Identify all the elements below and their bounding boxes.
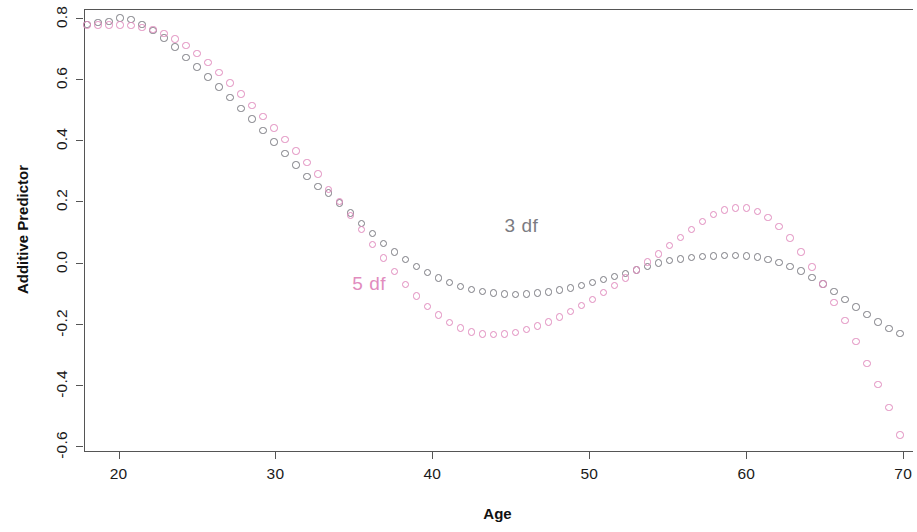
data-point (808, 274, 815, 281)
data-point (83, 21, 90, 28)
data-point (863, 311, 870, 318)
data-point (215, 69, 222, 76)
data-point (721, 206, 728, 213)
data-point (501, 330, 508, 337)
x-tick-mark (589, 452, 590, 459)
x-tick-label: 50 (569, 465, 609, 483)
x-tick-label: 60 (726, 465, 766, 483)
y-axis-title: Additive Predictor (14, 129, 31, 329)
data-point (204, 73, 211, 80)
data-point (292, 147, 299, 154)
data-point (830, 299, 837, 306)
data-point (182, 54, 189, 61)
data-point (797, 248, 804, 255)
data-point (819, 280, 826, 287)
data-point (138, 24, 145, 31)
data-point (314, 183, 321, 190)
x-tick-mark (119, 452, 120, 459)
data-point (710, 252, 717, 259)
data-point (270, 138, 277, 145)
data-point (808, 263, 815, 270)
x-tick-label: 30 (255, 465, 295, 483)
data-point (193, 50, 200, 57)
data-point (699, 253, 706, 260)
data-point (435, 274, 442, 281)
data-point (512, 329, 519, 336)
y-tick-mark (76, 201, 83, 202)
y-tick-mark (76, 79, 83, 80)
data-point (754, 208, 761, 215)
data-point (644, 258, 651, 265)
data-point (764, 256, 771, 263)
data-point (655, 259, 662, 266)
data-point (457, 324, 464, 331)
data-point (885, 325, 892, 332)
data-point (281, 136, 288, 143)
data-point (732, 252, 739, 259)
data-point (303, 159, 310, 166)
y-tick-label: -0.2 (53, 297, 71, 349)
series-label-5-df: 5 df (352, 273, 386, 295)
data-point (248, 115, 255, 122)
y-tick-mark (76, 18, 83, 19)
data-point (248, 102, 255, 109)
x-tick-mark (903, 452, 904, 459)
data-point (226, 79, 233, 86)
data-point (589, 296, 596, 303)
data-point (292, 161, 299, 168)
data-point (885, 404, 892, 411)
data-point (567, 284, 574, 291)
data-point (743, 252, 750, 259)
data-point (775, 259, 782, 266)
y-tick-mark (76, 140, 83, 141)
data-point (545, 288, 552, 295)
data-point (841, 317, 848, 324)
data-point (688, 254, 695, 261)
y-tick-label: 0.4 (53, 113, 71, 165)
data-point (193, 63, 200, 70)
data-point (754, 253, 761, 260)
data-point (633, 266, 640, 273)
y-tick-label: 0.8 (53, 0, 71, 43)
data-point (863, 360, 870, 367)
data-point (171, 35, 178, 42)
data-point (841, 296, 848, 303)
data-point (160, 30, 167, 37)
data-point (874, 318, 881, 325)
data-point (896, 330, 903, 337)
data-point (743, 204, 750, 211)
data-point (259, 113, 266, 120)
data-point (94, 21, 101, 28)
x-tick-mark (746, 452, 747, 459)
data-point (435, 311, 442, 318)
data-point (556, 313, 563, 320)
data-point (655, 250, 662, 257)
data-point (797, 267, 804, 274)
data-point (314, 170, 321, 177)
data-point (303, 173, 310, 180)
data-point (270, 124, 277, 131)
data-point (896, 431, 903, 438)
data-point (105, 21, 112, 28)
data-point (534, 289, 541, 296)
x-tick-label: 20 (99, 465, 139, 483)
data-point (830, 288, 837, 295)
data-point (116, 21, 123, 28)
x-tick-label: 40 (412, 465, 452, 483)
y-tick-mark (76, 385, 83, 386)
y-tick-label: -0.6 (53, 419, 71, 471)
data-point (710, 211, 717, 218)
data-point (237, 105, 244, 112)
data-point (523, 290, 530, 297)
data-point (215, 83, 222, 90)
data-point (534, 322, 541, 329)
y-tick-label: 0.6 (53, 52, 71, 104)
y-tick-label: 0.2 (53, 174, 71, 226)
data-point (182, 42, 189, 49)
data-point (699, 218, 706, 225)
data-point (622, 274, 629, 281)
y-tick-mark (76, 263, 83, 264)
data-point (226, 94, 233, 101)
data-point (380, 254, 387, 261)
